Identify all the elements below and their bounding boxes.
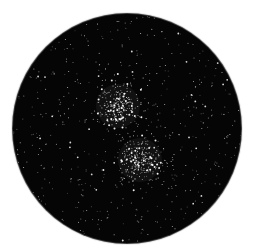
star — [149, 17, 150, 18]
lower-cluster-star — [156, 150, 157, 151]
upper-cluster-star — [107, 110, 109, 112]
upper-cluster-star — [106, 107, 107, 108]
upper-cluster-star — [146, 118, 147, 119]
lower-cluster-star — [127, 169, 128, 170]
upper-cluster-star — [114, 107, 115, 108]
upper-cluster-star — [122, 108, 123, 109]
star — [50, 135, 51, 136]
upper-cluster-star — [123, 105, 124, 106]
lower-cluster-star — [142, 142, 143, 143]
upper-cluster-star — [118, 112, 119, 113]
star — [229, 134, 230, 135]
star — [129, 239, 130, 240]
lower-cluster-star — [137, 149, 138, 150]
lower-cluster-star — [135, 164, 136, 165]
star — [210, 168, 211, 169]
star — [62, 219, 63, 220]
star — [84, 101, 85, 102]
star — [235, 147, 236, 148]
star — [160, 126, 161, 127]
star — [180, 150, 181, 151]
star — [83, 211, 84, 212]
star — [62, 124, 63, 125]
upper-cluster-star — [113, 110, 114, 111]
lower-cluster-star — [143, 160, 144, 161]
star — [228, 94, 229, 95]
lower-cluster-star — [134, 147, 135, 148]
upper-cluster-star — [121, 92, 122, 93]
lower-cluster-star — [138, 165, 140, 167]
star — [227, 135, 228, 136]
star — [155, 221, 156, 222]
star — [112, 39, 113, 40]
lower-cluster-star — [102, 169, 104, 171]
star — [69, 142, 71, 144]
star — [85, 183, 86, 184]
star — [222, 72, 223, 73]
star — [105, 80, 106, 81]
star — [168, 70, 169, 71]
star — [49, 182, 50, 183]
upper-cluster-star — [111, 106, 112, 107]
star — [194, 58, 195, 59]
lower-cluster-star — [135, 167, 136, 168]
star — [174, 65, 175, 66]
star — [211, 115, 212, 116]
upper-cluster-star — [124, 109, 125, 110]
star — [67, 87, 68, 88]
star — [73, 105, 74, 106]
star — [224, 138, 225, 139]
star — [37, 172, 38, 173]
star — [107, 211, 108, 212]
star — [170, 211, 171, 212]
star — [167, 166, 168, 167]
star — [215, 68, 216, 69]
star — [97, 154, 98, 155]
star — [201, 113, 202, 114]
lower-cluster-star — [157, 173, 159, 175]
upper-cluster-star — [124, 107, 125, 108]
lower-cluster-star — [139, 153, 140, 154]
upper-cluster-star — [111, 124, 112, 125]
star — [121, 65, 122, 66]
star — [212, 83, 213, 84]
star — [100, 105, 101, 106]
lower-cluster-star — [141, 159, 142, 160]
upper-cluster-star — [127, 98, 128, 99]
lower-cluster-star — [138, 161, 139, 162]
star — [120, 181, 121, 182]
lower-cluster-star — [134, 169, 135, 170]
star — [168, 43, 169, 44]
star — [183, 174, 184, 175]
star — [227, 137, 228, 138]
star — [140, 33, 141, 34]
upper-cluster-star — [135, 117, 136, 118]
upper-cluster-star — [106, 93, 107, 94]
upper-cluster-star — [127, 91, 128, 92]
star — [171, 161, 172, 162]
star — [183, 99, 184, 100]
star — [70, 44, 71, 45]
star — [151, 122, 152, 123]
star — [45, 144, 46, 145]
upper-cluster-star — [107, 118, 108, 119]
upper-cluster-star — [113, 120, 114, 121]
lower-cluster-star — [162, 165, 163, 166]
lower-cluster-star — [134, 156, 136, 158]
star — [32, 145, 33, 146]
star — [199, 84, 200, 85]
star — [193, 107, 194, 108]
star — [139, 116, 140, 117]
upper-cluster-star — [132, 108, 133, 109]
star — [194, 101, 196, 103]
upper-cluster-star — [118, 103, 119, 104]
lower-cluster-star — [133, 135, 134, 136]
star — [88, 41, 89, 42]
star — [147, 35, 148, 36]
lower-cluster-star — [144, 154, 145, 155]
star — [146, 130, 147, 131]
star — [122, 46, 123, 47]
star — [142, 197, 143, 198]
upper-cluster-star — [130, 122, 131, 123]
star — [130, 23, 131, 24]
